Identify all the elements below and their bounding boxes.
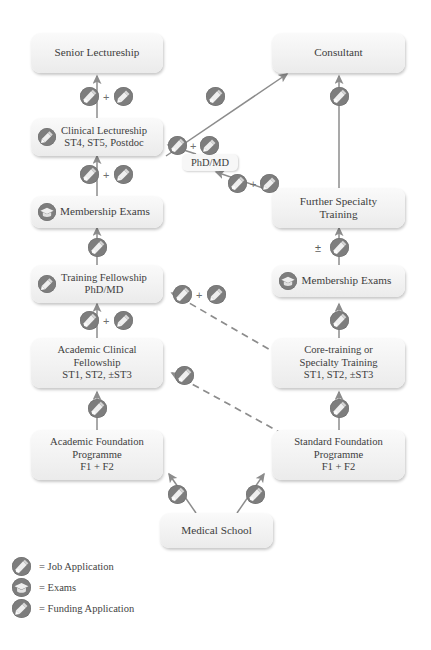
node-standard-foundation-programme[interactable]: Standard Foundation Programme F1 + F2 xyxy=(272,430,405,480)
legend-item-exams: = Exams xyxy=(12,577,134,598)
job-application-icon xyxy=(80,87,99,106)
funding-application-icon xyxy=(207,285,226,304)
legend-label: = Funding Application xyxy=(39,603,134,614)
plus-minus-symbol: ± xyxy=(315,243,321,254)
node-label: Training Fellowship PhD/MD xyxy=(57,272,151,297)
job-application-icon xyxy=(206,87,225,106)
node-label: Core-training or Specialty Training ST1,… xyxy=(296,344,382,382)
node-label: Clinical Lectureship ST4, ST5, Postdoc xyxy=(57,125,151,150)
job-application-icon xyxy=(175,366,194,385)
node-clinical-lectureship[interactable]: Clinical Lectureship ST4, ST5, Postdoc xyxy=(31,118,163,156)
funding-application-icon xyxy=(38,275,56,293)
node-label: Further Specialty Training xyxy=(296,195,381,221)
node-academic-clinical-fellowship[interactable]: Academic Clinical Fellowship ST1, ST2, ±… xyxy=(31,338,163,388)
legend-label: = Job Application xyxy=(39,561,114,572)
node-core-training[interactable]: Core-training or Specialty Training ST1,… xyxy=(272,338,405,388)
node-consultant[interactable]: Consultant xyxy=(272,33,405,73)
node-label: Senior Lectureship xyxy=(51,46,144,59)
funding-application-icon xyxy=(200,136,219,155)
node-label: Standard Foundation Programme F1 + F2 xyxy=(290,436,387,474)
exams-icon xyxy=(279,272,297,290)
job-application-icon xyxy=(88,399,107,418)
funding-application-icon xyxy=(114,87,133,106)
funding-application-icon xyxy=(12,599,31,618)
node-membership-exams-right[interactable]: Membership Exams xyxy=(272,265,405,297)
node-senior-lectureship[interactable]: Senior Lectureship xyxy=(31,33,163,73)
node-further-specialty-training[interactable]: Further Specialty Training xyxy=(272,188,405,228)
node-label: Academic Clinical Fellowship ST1, ST2, ±… xyxy=(53,344,140,382)
node-phd-md[interactable]: PhD/MD xyxy=(182,154,238,171)
job-application-icon xyxy=(330,399,349,418)
funding-application-icon xyxy=(38,128,56,146)
node-label: Consultant xyxy=(310,46,366,59)
node-label: Membership Exams xyxy=(298,274,396,287)
plus-symbol: + xyxy=(250,179,256,190)
job-application-icon xyxy=(80,165,99,184)
job-application-icon xyxy=(228,174,247,193)
job-application-icon xyxy=(330,238,349,257)
legend-item-funding-application: = Funding Application xyxy=(12,598,134,619)
node-academic-foundation-programme[interactable]: Academic Foundation Programme F1 + F2 xyxy=(31,430,163,480)
plus-symbol: + xyxy=(196,290,202,301)
funding-application-icon xyxy=(114,311,133,330)
job-application-icon xyxy=(168,485,187,504)
plus-symbol: + xyxy=(190,141,196,152)
exams-icon xyxy=(12,578,31,597)
node-medical-school[interactable]: Medical School xyxy=(160,513,273,548)
legend: = Job Application = Exams = Funding Appl… xyxy=(12,556,134,619)
plus-symbol: + xyxy=(103,170,109,181)
job-application-icon xyxy=(12,557,31,576)
funding-application-icon xyxy=(260,174,279,193)
node-training-fellowship[interactable]: Training Fellowship PhD/MD xyxy=(31,265,163,303)
job-application-icon xyxy=(173,285,192,304)
legend-item-job-application: = Job Application xyxy=(12,556,134,577)
job-application-icon xyxy=(88,238,107,257)
node-membership-exams-left[interactable]: Membership Exams xyxy=(31,196,163,228)
job-application-icon xyxy=(168,136,187,155)
node-label: PhD/MD xyxy=(191,157,229,168)
job-application-icon xyxy=(330,87,349,106)
node-label: Membership Exams xyxy=(56,205,154,218)
exams-icon xyxy=(38,203,56,221)
legend-label: = Exams xyxy=(39,582,76,593)
career-pathway-diagram: Senior Lectureship Consultant Clinical L… xyxy=(0,0,431,650)
arrow-core-to-fellowship-dashed xyxy=(172,293,279,355)
job-application-icon xyxy=(80,311,99,330)
job-application-icon xyxy=(330,311,349,330)
plus-symbol: + xyxy=(103,92,109,103)
plus-symbol: + xyxy=(103,316,109,327)
node-label: Academic Foundation Programme F1 + F2 xyxy=(46,436,148,474)
node-label: Medical School xyxy=(177,524,256,537)
job-application-icon xyxy=(246,485,265,504)
funding-application-icon xyxy=(114,165,133,184)
